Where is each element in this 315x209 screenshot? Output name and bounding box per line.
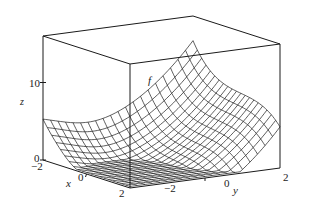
y-tick-0: 0	[224, 178, 230, 189]
y-axis-label: y	[233, 185, 238, 196]
surface-mesh	[43, 41, 280, 187]
function-label: f	[148, 75, 151, 86]
x-tick-2: 2	[119, 188, 125, 199]
x-axis-label: x	[66, 178, 71, 189]
x-tick-neg2: −2	[31, 161, 43, 172]
x-tick-0: 0	[78, 172, 84, 183]
z-axis-label: z	[20, 97, 24, 107]
axis-ticks	[40, 83, 205, 182]
y-tick-neg2: −2	[164, 183, 176, 194]
bounding-box-back	[43, 16, 280, 160]
y-tick-2: 2	[283, 172, 289, 183]
surface-plot	[0, 0, 315, 209]
z-tick-10: 10	[29, 78, 40, 89]
